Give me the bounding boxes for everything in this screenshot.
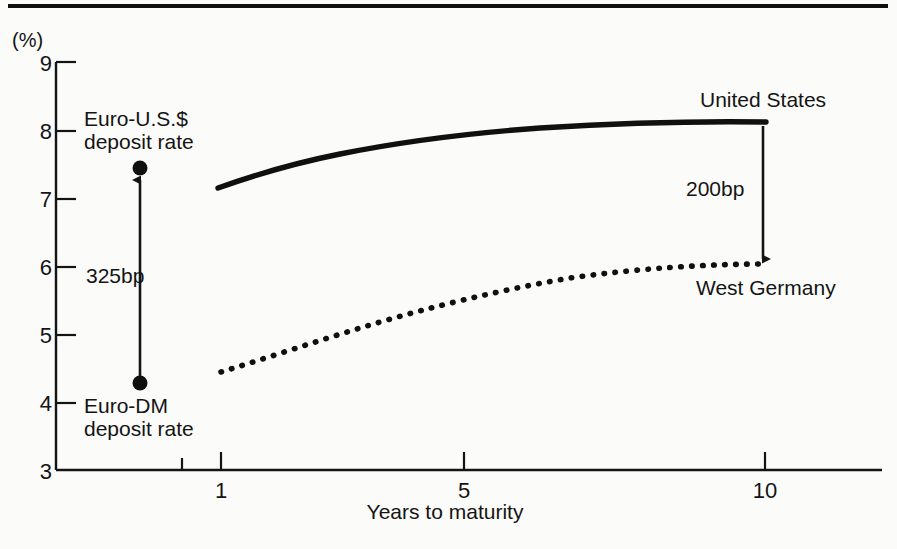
series-line-united-states [218, 122, 766, 188]
euro-usd-deposit-rate-point [133, 161, 148, 176]
y-axis-ticks [56, 62, 76, 403]
euro-dm-deposit-rate-point [133, 376, 148, 391]
chart-plot-area [0, 0, 897, 549]
chart-page: (%) 9 8 7 6 5 4 3 1 5 10 Years to maturi… [0, 0, 897, 549]
x-axis-ticks [182, 452, 765, 470]
series-line-west-germany [221, 264, 766, 372]
